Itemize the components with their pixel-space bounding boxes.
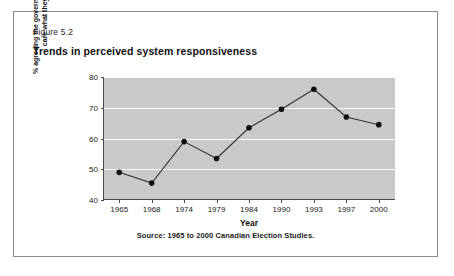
- x-axis-tick-label: 1993: [305, 205, 323, 214]
- chart-plot-area: Year 19651968197419791984199019931997200…: [103, 77, 395, 200]
- source-note: Source: 1965 to 2000 Canadian Election S…: [14, 231, 437, 240]
- data-series-line: [119, 89, 379, 183]
- x-axis-tick-label: 1990: [273, 205, 291, 214]
- y-axis-tick-label: 50: [89, 165, 98, 174]
- x-axis-tick-mark: [217, 200, 218, 203]
- line-chart-svg: [103, 77, 395, 200]
- x-axis-title: Year: [240, 218, 258, 228]
- x-axis-tick-mark: [249, 200, 250, 203]
- y-axis-tick-labels: 4050607080: [14, 12, 98, 135]
- data-point-marker: [376, 122, 382, 128]
- x-axis-tick-label: 1974: [175, 205, 193, 214]
- data-point-marker: [116, 170, 122, 176]
- x-axis-tick-labels: Year 19651968197419791984199019931997200…: [103, 200, 395, 220]
- data-point-marker: [149, 180, 155, 186]
- x-axis-tick-mark: [281, 200, 282, 203]
- y-axis-tick-label: 80: [89, 73, 98, 82]
- data-point-marker: [311, 87, 317, 93]
- y-axis-tick-label: 70: [89, 103, 98, 112]
- figure-container: Figure 5.2 Trends in perceived system re…: [13, 11, 438, 257]
- data-point-marker: [214, 156, 220, 162]
- data-point-marker: [344, 114, 350, 120]
- data-point-marker: [181, 139, 187, 145]
- x-axis-tick-mark: [152, 200, 153, 203]
- x-axis-tick-mark: [314, 200, 315, 203]
- x-axis-tick-label: 1984: [240, 205, 258, 214]
- data-point-marker: [279, 106, 285, 112]
- x-axis-tick-label: 1979: [208, 205, 226, 214]
- x-axis-tick-mark: [346, 200, 347, 203]
- x-axis-tick-label: 1968: [143, 205, 161, 214]
- x-axis-tick-label: 1997: [337, 205, 355, 214]
- x-axis-tick-mark: [379, 200, 380, 203]
- data-point-marker: [246, 125, 252, 131]
- y-axis-tick-label: 60: [89, 134, 98, 143]
- x-axis-tick-mark: [184, 200, 185, 203]
- x-axis-tick-mark: [119, 200, 120, 203]
- x-axis-tick-label: 1965: [110, 205, 128, 214]
- x-axis-tick-label: 2000: [370, 205, 388, 214]
- y-axis-tick-label: 40: [89, 196, 98, 205]
